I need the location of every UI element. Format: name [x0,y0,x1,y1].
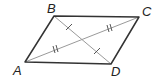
vertex-label-d: D [111,64,120,77]
parallelogram-diagram: A B C D [0,0,159,77]
vertex-label-b: B [47,1,56,16]
tick-marks-AC [53,24,112,53]
vertex-label-c: C [142,4,152,19]
vertex-label-a: A [12,63,22,77]
diagonal-BD [54,16,111,64]
